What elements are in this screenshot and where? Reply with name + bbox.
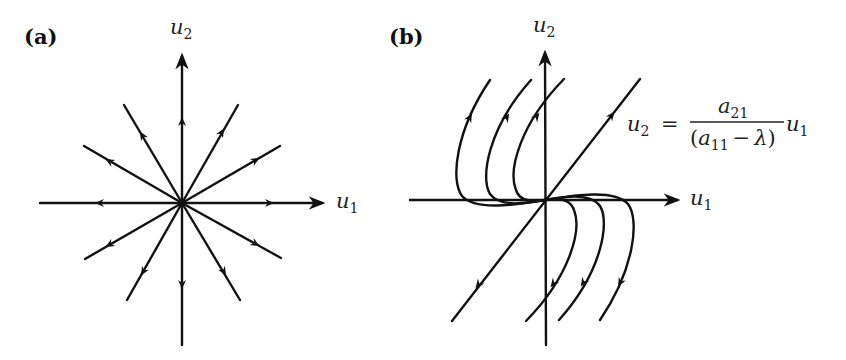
trajectory-ray — [124, 105, 182, 203]
u1-axis-label: u1 — [336, 189, 358, 216]
equation-numerator: a21 — [718, 94, 748, 121]
u2-axis-label: u2 — [533, 13, 555, 40]
trajectory-ray — [84, 146, 182, 203]
arrow-icon — [250, 238, 262, 249]
trajectory-ray — [182, 203, 281, 258]
origin-node — [179, 200, 186, 207]
lower-trajectories — [526, 194, 634, 321]
arrow-icon — [104, 239, 116, 250]
panel-a-label: (a) — [24, 24, 57, 49]
upper-trajectories — [456, 79, 564, 206]
equation-equals: = — [661, 112, 679, 136]
panel-b-label: (b) — [389, 24, 424, 49]
arrow-icon — [138, 266, 149, 278]
equation-lhs: u2 — [627, 112, 649, 139]
trajectory-ray — [182, 146, 280, 203]
equation-denominator: (a11−λ) — [690, 126, 776, 153]
equation-rhs: u1 — [786, 112, 808, 139]
trajectory-curve — [456, 80, 545, 206]
panel-b: (b) u2 u1 — [389, 13, 808, 345]
arrow-icon — [250, 155, 262, 166]
trajectory-curve — [514, 79, 564, 201]
panel-a: (a) u2 u1 — [24, 15, 358, 345]
eigenvector-equation: u2 = a21 (a11−λ) u1 — [627, 94, 808, 153]
u2-axis-label: u2 — [170, 15, 192, 42]
phase-portrait-figure: (a) u2 u1 — [0, 0, 846, 360]
trajectory-curve — [545, 194, 634, 320]
trajectory-ray — [182, 203, 240, 300]
trajectory-ray — [182, 105, 238, 203]
u1-axis-label: u1 — [690, 186, 712, 213]
